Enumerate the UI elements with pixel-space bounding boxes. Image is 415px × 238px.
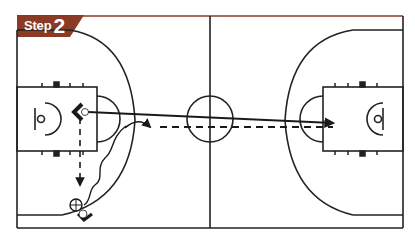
left-restricted-arc bbox=[45, 103, 61, 135]
left-key bbox=[17, 87, 97, 151]
right-free-throw-circle bbox=[300, 96, 323, 142]
step-tab bbox=[17, 15, 84, 37]
left-three-point-arc bbox=[62, 30, 135, 215]
basketball-court-diagram bbox=[0, 0, 415, 238]
offensive-player-icon bbox=[74, 104, 89, 120]
left-rim bbox=[38, 116, 45, 123]
cut-curve-start bbox=[125, 122, 150, 128]
right-rim bbox=[375, 116, 382, 123]
left-key-hash-marks bbox=[42, 82, 83, 156]
court bbox=[17, 16, 403, 228]
right-key-hash-marks bbox=[335, 82, 377, 156]
right-key bbox=[323, 87, 403, 151]
